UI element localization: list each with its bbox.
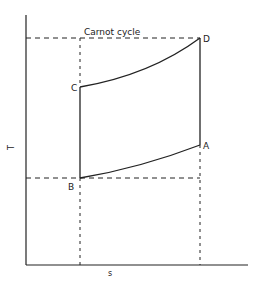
point-label-a: A [203,141,210,151]
point-label-c: C [71,83,77,93]
point-label-b: B [68,182,74,192]
point-label-d: D [203,34,210,44]
x-axis-label: s [108,269,112,278]
ts-diagram: Carnot cycle D C A B s T [0,0,259,284]
y-axis-label: T [7,145,16,151]
process-c-d [80,38,200,87]
process-a-b [80,145,200,178]
diagram-title: Carnot cycle [84,27,141,37]
